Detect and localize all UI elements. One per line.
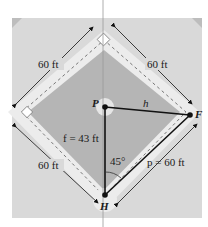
- point-f: [187, 112, 193, 118]
- label-60ft-top-right: 60 ft: [147, 58, 167, 70]
- label-point-h: H: [99, 200, 109, 212]
- point-h: [102, 192, 108, 198]
- point-p: [102, 104, 108, 110]
- baseball-diamond-diagram: 60 ft 60 ft 60 ft P F H h f = 43 ft p = …: [0, 0, 208, 227]
- label-angle: 45°: [110, 155, 125, 167]
- label-point-f: F: [194, 108, 203, 120]
- label-p: p = 60 ft: [147, 156, 185, 168]
- label-f: f = 43 ft: [63, 132, 99, 144]
- label-point-p: P: [92, 97, 99, 109]
- label-60ft-bottom-left: 60 ft: [38, 159, 58, 171]
- label-h: h: [143, 97, 149, 109]
- label-60ft-top-left: 60 ft: [38, 58, 58, 70]
